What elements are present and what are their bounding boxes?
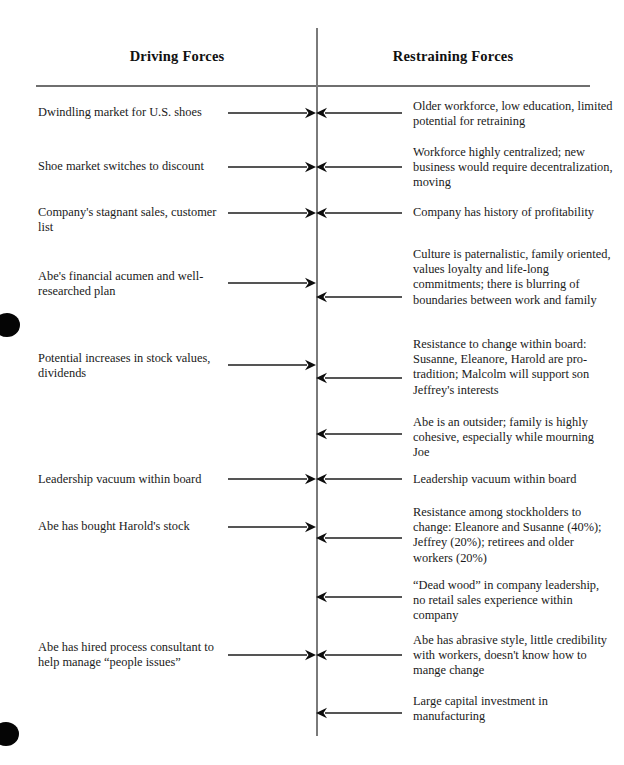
column-header-restraining-forces: Restraining Forces bbox=[393, 48, 514, 65]
restraining-force-arrow bbox=[316, 290, 402, 304]
restraining-force-text: Older workforce, low education, limited … bbox=[413, 99, 613, 129]
restraining-force-text: Workforce highly centralized; new busine… bbox=[413, 145, 613, 191]
driving-force-text: Leadership vacuum within board bbox=[38, 472, 228, 487]
driving-force-arrow bbox=[228, 648, 316, 662]
restraining-force-text: Resistance to change within board: Susan… bbox=[413, 337, 613, 398]
driving-force-text: Abe has bought Harold's stock bbox=[38, 519, 228, 534]
driving-force-arrow bbox=[228, 206, 316, 220]
restraining-force-arrow bbox=[316, 371, 402, 385]
restraining-force-arrow bbox=[316, 648, 402, 662]
restraining-force-text: Abe is an outsider; family is highly coh… bbox=[413, 415, 613, 461]
restraining-force-arrow bbox=[316, 160, 402, 174]
scan-artifact-dot bbox=[0, 722, 19, 746]
column-header-driving-forces: Driving Forces bbox=[130, 48, 225, 65]
driving-force-arrow bbox=[228, 160, 316, 174]
restraining-force-text: Resistance among stockholders to change:… bbox=[413, 505, 613, 566]
driving-force-text: Company's stagnant sales, customer list bbox=[38, 205, 228, 235]
driving-force-arrow bbox=[228, 358, 316, 372]
restraining-force-text: Company has history of profitability bbox=[413, 205, 613, 220]
driving-force-text: Potential increases in stock values, div… bbox=[38, 351, 228, 381]
driving-force-text: Shoe market switches to discount bbox=[38, 159, 228, 174]
driving-force-text: Abe has hired process consultant to help… bbox=[38, 640, 228, 670]
restraining-force-arrow bbox=[316, 590, 402, 604]
driving-force-arrow bbox=[228, 472, 316, 486]
driving-force-arrow bbox=[228, 520, 316, 534]
driving-force-text: Abe's financial acumen and well-research… bbox=[38, 269, 228, 299]
restraining-force-text: Abe has abrasive style, little credibili… bbox=[413, 633, 613, 679]
scan-artifact-dot bbox=[0, 313, 20, 337]
restraining-force-arrow bbox=[316, 472, 402, 486]
restraining-force-arrow bbox=[316, 106, 402, 120]
restraining-force-arrow bbox=[316, 706, 402, 720]
restraining-force-text: “Dead wood” in company leadership, no re… bbox=[413, 578, 613, 624]
restraining-force-text: Leadership vacuum within board bbox=[413, 472, 613, 487]
restraining-force-arrow bbox=[316, 206, 402, 220]
restraining-force-arrow bbox=[316, 531, 402, 545]
force-field-diagram: Driving Forces Restraining Forces Dwindl… bbox=[0, 0, 624, 765]
header-divider-rule bbox=[36, 85, 590, 87]
restraining-force-text: Large capital investment in manufacturin… bbox=[413, 694, 613, 724]
restraining-force-text: Culture is paternalistic, family oriente… bbox=[413, 247, 613, 308]
restraining-force-arrow bbox=[316, 427, 402, 441]
driving-force-text: Dwindling market for U.S. shoes bbox=[38, 105, 228, 120]
driving-force-arrow bbox=[228, 106, 316, 120]
driving-force-arrow bbox=[228, 276, 316, 290]
